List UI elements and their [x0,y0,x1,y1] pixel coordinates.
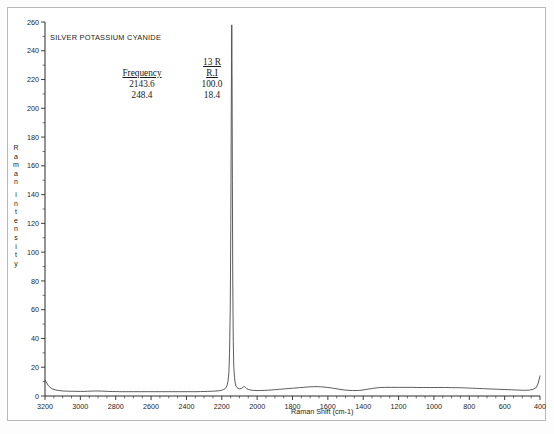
y-tick-label: 100 [27,248,39,257]
y-axis-title-char: n [10,200,22,209]
peak-ri-value: 18.4 [181,90,243,101]
x-tick-label: 400 [534,402,546,411]
peak-table-group-label: 13 R [203,57,221,67]
x-tick-label: 2600 [143,402,159,411]
peak-ri-value: 100.0 [181,79,243,90]
x-tick-label: 2000 [249,402,265,411]
y-tick-label: 80 [31,277,39,286]
y-axis-title: Ramanintensity [10,144,22,268]
x-tick-label: 1000 [426,402,442,411]
x-tick-label: 2800 [108,402,124,411]
y-axis-title-char: a [10,170,22,179]
y-tick-label: 140 [27,190,39,199]
y-tick-label: 200 [27,104,39,113]
x-tick-label: 1400 [355,402,371,411]
page-background: 020406080100120140160180200220240260 320… [0,0,554,434]
y-axis-title-char: R [10,144,22,153]
y-axis: 020406080100120140160180200220240260 [27,18,45,401]
y-axis-title-char: e [10,217,22,226]
y-tick-label: 180 [27,133,39,142]
peak-table-header-row: Frequency R.I [103,68,243,79]
peak-table-row: 2143.6 100.0 [103,79,243,90]
y-axis-title-char: t [10,208,22,217]
y-axis-title-char: n [10,225,22,234]
y-tick-label: 260 [27,18,39,27]
peak-table-group-header: 13 R [181,57,243,68]
peak-table-row: 248.4 18.4 [103,90,243,101]
y-axis-title-char: t [10,251,22,260]
peak-frequency-value: 248.4 [103,90,181,101]
x-tick-label: 3000 [72,402,88,411]
peak-table-spacer [103,57,181,68]
peak-table-grid: 13 R Frequency R.I 2143.6 100.0 248.4 18… [103,57,243,101]
y-axis-title-char: y [10,260,22,269]
x-tick-label: 3200 [37,402,53,411]
x-tick-label: 1200 [391,402,407,411]
y-axis-title-char: n [10,178,22,187]
plot-svg: 020406080100120140160180200220240260 320… [0,0,554,434]
y-tick-label: 120 [27,219,39,228]
x-tick-label: 2400 [178,402,194,411]
y-tick-label: 60 [31,305,39,314]
y-axis-title-char: m [10,161,22,170]
y-tick-label: 160 [27,161,39,170]
y-tick-label: 220 [27,75,39,84]
y-tick-label: 0 [35,392,39,401]
raman-spectrum-chart: 020406080100120140160180200220240260 320… [0,0,554,434]
x-tick-label: 800 [463,402,475,411]
y-tick-label: 20 [31,363,39,372]
x-tick-label: 600 [499,402,511,411]
peak-table: 13 R Frequency R.I 2143.6 100.0 248.4 18… [103,57,243,101]
peak-table-group-row: 13 R [103,57,243,68]
y-axis-title-char: a [10,153,22,162]
y-tick-label: 240 [27,46,39,55]
y-axis-title-char: s [10,234,22,243]
x-axis-title: Raman Shift (cm-1) [291,407,353,416]
y-axis-title-char: i [10,243,22,252]
y-tick-label: 40 [31,334,39,343]
x-tick-label: 2200 [214,402,230,411]
sample-title: SILVER POTASSIUM CYANIDE [50,33,161,42]
peak-table-header-ri: R.I [181,68,243,79]
peak-table-header-frequency: Frequency [103,68,181,79]
peak-frequency-value: 2143.6 [103,79,181,90]
y-axis-title-char: i [10,191,22,200]
